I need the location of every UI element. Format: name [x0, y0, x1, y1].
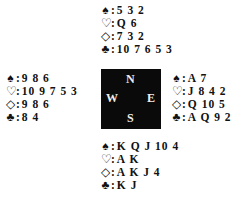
south-clubs: ♣:K J	[101, 179, 179, 192]
west-hand: ♠:9 8 6 ♡:10 9 7 5 3 ◇:9 8 6 ♣:8 4	[6, 72, 78, 124]
west-hearts: ♡:10 9 7 5 3	[6, 85, 78, 98]
west-clubs: ♣:8 4	[6, 111, 78, 124]
club-icon: ♣	[6, 111, 16, 124]
south-hand: ♠:K Q J 10 4 ♡:A K ◇:A K J 4 ♣:K J	[101, 140, 179, 192]
west-diamonds: ◇:9 8 6	[6, 98, 78, 111]
compass-north: N	[126, 72, 135, 87]
club-icon: ♣	[101, 43, 111, 56]
north-clubs: ♣:10 7 6 5 3	[101, 43, 173, 56]
north-hearts: ♡:Q 6	[101, 17, 173, 30]
north-hand: ♠:5 3 2 ♡:Q 6 ◇:7 3 2 ♣:10 7 6 5 3	[101, 4, 173, 56]
club-icon: ♣	[172, 111, 182, 124]
compass-table: N W E S	[101, 69, 161, 129]
compass-south: S	[127, 111, 134, 126]
club-icon: ♣	[101, 179, 111, 192]
compass-east: E	[147, 91, 155, 106]
north-diamonds: ◇:7 3 2	[101, 30, 173, 43]
east-clubs: ♣:A Q 9 2	[172, 111, 232, 124]
south-diamonds: ◇:A K J 4	[101, 166, 179, 179]
compass-west: W	[106, 91, 118, 106]
east-hand: ♠:A 7 ♡:J 8 4 2 ◇:Q 10 5 ♣:A Q 9 2	[172, 72, 232, 124]
south-hearts: ♡:A K	[101, 153, 179, 166]
